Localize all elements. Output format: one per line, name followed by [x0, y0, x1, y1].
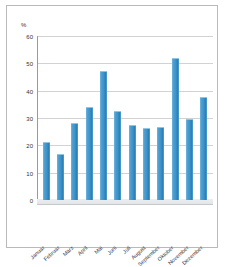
bar-slot [125, 36, 139, 200]
bar[interactable] [57, 154, 64, 200]
bar[interactable] [143, 128, 150, 200]
bar[interactable] [100, 71, 107, 200]
x-axis-tick-label: Juni [107, 245, 118, 256]
bar-slot [53, 36, 67, 200]
bar[interactable] [43, 142, 50, 200]
bar[interactable] [114, 111, 121, 200]
y-axis-unit-label: % [21, 22, 26, 28]
x-axis-tick-label: April [77, 245, 89, 256]
bar-series [37, 36, 213, 200]
plot-area: 0102030405060 [37, 36, 213, 200]
axes: 0102030405060 [37, 36, 213, 200]
bar[interactable] [157, 127, 164, 200]
x-axis-tick-label: Juli [122, 245, 132, 255]
bar-slot [168, 36, 182, 200]
y-axis-tick-label: 50 [26, 61, 33, 67]
x-axis-tick-label: März [62, 245, 75, 257]
chart-frame: % 0102030405060 JanuarFebruarMärzAprilMa… [6, 5, 218, 248]
y-axis-tick-label: 60 [26, 34, 33, 40]
bar[interactable] [71, 123, 78, 200]
x-axis-tick-label: Mai [93, 245, 103, 255]
y-axis-tick-label: 10 [26, 171, 33, 177]
bar-slot [39, 36, 53, 200]
y-axis-tick-label: 40 [26, 89, 33, 95]
bar-slot [139, 36, 153, 200]
bar-slot [111, 36, 125, 200]
bar[interactable] [129, 125, 136, 200]
x-axis-labels: JanuarFebruarMärzAprilMaiJuniJuliAugustS… [37, 205, 213, 249]
bar-slot [82, 36, 96, 200]
y-axis-tick-label: 20 [26, 143, 33, 149]
bar-slot [96, 36, 110, 200]
bar[interactable] [172, 58, 179, 200]
y-axis-tick-label: 0 [30, 198, 33, 204]
bar-slot [154, 36, 168, 200]
bar-slot [197, 36, 211, 200]
bar-slot [68, 36, 82, 200]
y-axis-tick-label: 30 [26, 116, 33, 122]
bar[interactable] [86, 107, 93, 200]
bar[interactable] [186, 119, 193, 200]
bar[interactable] [200, 97, 207, 200]
bar-slot [182, 36, 196, 200]
